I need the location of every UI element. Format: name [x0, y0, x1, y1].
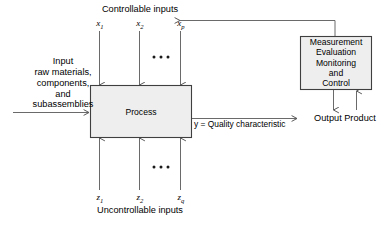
ellipsis-dot [153, 166, 156, 169]
measurement-line-5: Control [310, 78, 363, 88]
uncontrollable-input-arrows [100, 138, 181, 190]
uncontrollable-variable-z2: z2 [137, 192, 144, 205]
input-label-line-5: subassemblies [33, 99, 94, 110]
variable-subscript: p [181, 23, 184, 30]
input-label-line-2: raw materials, [33, 67, 94, 78]
controllable-variable-xp: xp [177, 18, 184, 31]
measurement-line-4: and [310, 68, 363, 78]
variable-subscript: 2 [140, 23, 143, 30]
feedback-line [180, 21, 335, 38]
raw-material-input-label: Input raw materials, components, and sub… [33, 56, 94, 110]
uncontrollable-variable-zq: zq [178, 192, 185, 205]
variable-subscript: 1 [100, 197, 103, 204]
measurement-line-3: Monitoring [310, 58, 363, 68]
uncontrollable-inputs-title: Uncontrollable inputs [97, 205, 183, 216]
ellipsis-dot [167, 166, 170, 169]
ellipsis-dot [160, 166, 163, 169]
ellipsis-dot [167, 56, 170, 59]
ellipsis-dot [160, 56, 163, 59]
process-box-label: Process [125, 107, 156, 117]
variable-subscript: 2 [140, 197, 143, 204]
measurement-line-1: Measurement [310, 37, 363, 47]
ellipsis-dot [153, 56, 156, 59]
input-label-line-1: Input [33, 56, 94, 67]
variable-subscript: q [181, 197, 184, 204]
input-label-line-4: and [33, 89, 94, 100]
controllable-variable-x2: x2 [136, 18, 143, 31]
uncontrollable-variable-z1: z1 [97, 192, 104, 205]
controllable-variable-x1: x1 [96, 18, 103, 31]
uncontrollable-inputs-ellipsis [153, 166, 170, 169]
measurement-line-2: Evaluation [310, 48, 363, 58]
controllable-inputs-ellipsis [153, 56, 170, 59]
output-product-label: Output Product [314, 113, 376, 124]
input-label-line-3: components, [33, 78, 94, 89]
variable-subscript: 1 [100, 23, 103, 30]
measurement-box-label: Measurement Evaluation Monitoring and Co… [310, 37, 363, 89]
quality-characteristic-label: y = Quality characteristic [194, 120, 285, 130]
controllable-inputs-title: Controllable inputs [102, 4, 178, 15]
process-diagram: Controllable inputs x1 x2 xp Process Mea… [0, 0, 388, 226]
